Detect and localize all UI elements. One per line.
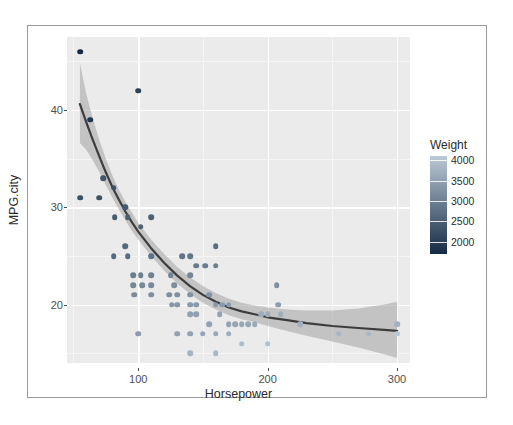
x-tick-label: 300: [388, 373, 406, 385]
y-tick-label: 30: [51, 201, 63, 213]
scatter-point: [297, 321, 303, 327]
scatter-point: [130, 273, 136, 279]
y-tick-mark: [64, 110, 67, 111]
scatter-point: [226, 331, 232, 337]
chart-figure: 203040 100200300 MPG.city Horsepower Wei…: [0, 0, 513, 425]
scatter-point: [88, 117, 94, 123]
scatter-point: [187, 253, 193, 259]
x-tick-mark: [138, 368, 139, 371]
legend-tick-label: 3000: [451, 195, 474, 207]
scatter-point: [122, 243, 128, 249]
scatter-point: [187, 273, 193, 279]
scatter-point: [111, 253, 117, 259]
scatter-point: [135, 88, 141, 94]
y-tick-label: 20: [51, 299, 63, 311]
scatter-point: [278, 312, 284, 318]
scatter-point: [138, 224, 144, 230]
scatter-point: [194, 302, 200, 308]
scatter-point: [77, 195, 83, 201]
legend-tick-mark: [430, 160, 447, 161]
scatter-point: [112, 214, 118, 220]
scatter-point: [97, 195, 103, 201]
y-tick-mark: [64, 305, 67, 306]
x-axis: 100200300: [67, 368, 410, 388]
scatter-point: [200, 331, 206, 337]
scatter-point: [148, 282, 154, 288]
x-tick-mark: [397, 368, 398, 371]
scatter-point: [148, 292, 154, 298]
scatter-point: [213, 263, 219, 269]
scatter-point: [166, 292, 172, 298]
y-axis: 203040: [37, 37, 63, 363]
legend-tick-mark: [430, 221, 447, 222]
legend-tick-mark: [430, 201, 447, 202]
scatter-point: [125, 253, 131, 259]
scatter-point: [139, 282, 145, 288]
legend-tick-label: 4000: [451, 154, 474, 166]
scatter-point: [203, 263, 209, 269]
scatter-point: [148, 273, 154, 279]
scatter-point: [265, 312, 271, 318]
scatter-point: [220, 302, 226, 308]
scatter-point: [217, 312, 223, 318]
scatter-point: [187, 350, 193, 356]
scatter-point: [213, 331, 219, 337]
scatter-point: [194, 312, 200, 318]
scatter-point: [232, 321, 238, 327]
legend-tick-label: 3500: [451, 175, 474, 187]
plot-panel: [67, 37, 410, 363]
y-tick-label: 40: [51, 104, 63, 116]
scatter-point: [226, 321, 232, 327]
scatter-point: [172, 282, 178, 288]
scatter-point: [187, 331, 193, 337]
scatter-point: [168, 273, 174, 279]
scatter-point: [226, 302, 232, 308]
x-tick-label: 200: [258, 373, 276, 385]
scatter-point: [187, 302, 193, 308]
legend-tick-mark: [430, 181, 447, 182]
scatter-point: [394, 321, 400, 327]
scatter-point: [77, 49, 83, 55]
scatter-point: [207, 321, 213, 327]
legend-body: 20002500300035004000: [430, 156, 486, 254]
scatter-point: [125, 214, 131, 220]
scatter-point: [239, 341, 245, 347]
x-axis-title: Horsepower: [67, 387, 410, 401]
scatter-point: [239, 321, 245, 327]
scatter-point: [148, 214, 154, 220]
y-axis-title: MPG.city: [7, 175, 21, 226]
scatter-point: [194, 263, 200, 269]
legend-title: Weight: [430, 138, 486, 152]
scatter-point: [213, 302, 219, 308]
scatter-point: [187, 292, 193, 298]
scatter-point: [207, 292, 213, 298]
scatter-point: [252, 321, 258, 327]
scatter-point: [174, 331, 180, 337]
scatter-point: [111, 185, 117, 191]
scatter-point: [274, 282, 280, 288]
scatter-point: [174, 302, 180, 308]
scatter-point: [100, 175, 106, 181]
scatter-point: [130, 282, 136, 288]
scatter-point: [213, 243, 219, 249]
scatter-point: [174, 292, 180, 298]
scatter-point: [265, 341, 271, 347]
x-tick-mark: [268, 368, 269, 371]
scatter-point: [135, 331, 141, 337]
legend: Weight 20002500300035004000: [430, 138, 486, 254]
scatter-point: [394, 331, 400, 337]
legend-tick-label: 2500: [451, 215, 474, 227]
scatter-point: [122, 205, 128, 211]
scatter-point: [179, 253, 185, 259]
legend-tick-label: 2000: [451, 236, 474, 248]
scatter-point: [336, 331, 342, 337]
scatter-point: [258, 312, 264, 318]
scatter-point: [148, 253, 154, 259]
y-tick-mark: [64, 207, 67, 208]
scatter-point: [187, 312, 193, 318]
legend-tick-mark: [430, 242, 447, 243]
scatter-point: [275, 302, 281, 308]
legend-colorbar: [430, 156, 447, 254]
scatter-point: [132, 292, 138, 298]
scatter-point: [366, 331, 372, 337]
